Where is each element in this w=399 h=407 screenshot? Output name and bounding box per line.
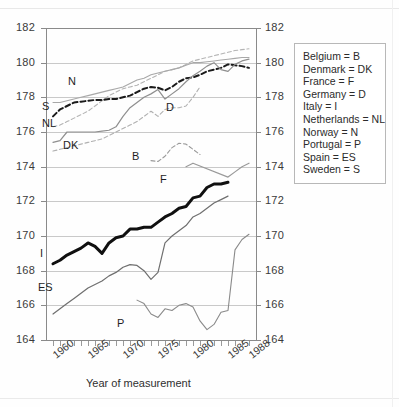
page-edge-right [392, 0, 393, 407]
y-axis-tick-label: 172 [3, 194, 35, 206]
legend-entry: Belgium = B [303, 50, 379, 63]
y-axis-tick-label: 174 [3, 160, 35, 172]
series-label-d: D [166, 101, 174, 113]
y-axis-tick-label: 168 [265, 264, 284, 276]
y-axis-tick-label: 182 [265, 21, 284, 33]
series-line-p [137, 234, 249, 329]
y-axis-tick-label: 176 [265, 125, 284, 137]
series-label-i: I [40, 247, 43, 259]
x-tick-minor [88, 341, 89, 346]
y-axis-tick-label: 178 [3, 90, 35, 102]
x-tick-minor [193, 341, 194, 346]
series-line-i [53, 182, 228, 263]
y-axis-tick-label: 170 [265, 229, 284, 241]
series-label-s: S [42, 100, 49, 112]
y-axis-tick-label: 182 [3, 21, 35, 33]
series-label-n: N [68, 75, 76, 87]
y-axis-tick-label: 180 [3, 56, 35, 68]
series-line-f [186, 163, 249, 177]
line-chart: 164166168170172174176178180182 164166168… [0, 0, 300, 407]
y-axis-tick-label: 166 [265, 298, 284, 310]
x-tick-minor [158, 341, 159, 346]
legend-entry: Norway = N [303, 126, 379, 139]
series-line-n [53, 57, 249, 102]
y-axis-tick-label: 170 [3, 229, 35, 241]
legend-entry: Sweden = S [303, 163, 379, 176]
x-tick-minor [81, 341, 82, 346]
series-line-b [151, 143, 200, 161]
y-axis-right [256, 28, 257, 340]
x-tick-minor [221, 341, 222, 346]
y-axis-tick-label: 172 [265, 194, 284, 206]
series-label-es: ES [38, 281, 53, 293]
page-background: 164166168170172174176178180182 164166168… [0, 0, 399, 407]
legend-entry: Denmark = DK [303, 63, 379, 76]
series-line-es [53, 196, 228, 314]
x-tick-minor [186, 341, 187, 346]
legend-entry: Spain = ES [303, 151, 379, 164]
y-axis-tick-label: 164 [3, 333, 35, 345]
series-label-p: P [117, 317, 124, 329]
legend-box: Belgium = BDenmark = DKFrance = FGermany… [294, 43, 386, 184]
legend-entry: Germany = D [303, 88, 379, 101]
x-tick-minor [151, 341, 152, 346]
y-axis-tick-label: 166 [3, 298, 35, 310]
plot-area [46, 28, 256, 340]
x-tick-minor [116, 341, 117, 346]
x-axis-title: Year of measurement [86, 377, 191, 389]
series-label-dk: DK [63, 139, 78, 151]
legend-entry: Italy = I [303, 100, 379, 113]
legend-entry: Netherlands = NL [303, 113, 379, 126]
y-axis-tick-label: 180 [265, 56, 284, 68]
series-lines [46, 28, 256, 340]
legend-entry: Portugal = P [303, 138, 379, 151]
series-label-f: F [160, 173, 167, 185]
x-tick-minor [123, 341, 124, 346]
legend-entry: France = F [303, 75, 379, 88]
y-axis-tick-label: 176 [3, 125, 35, 137]
series-label-b: B [132, 150, 139, 162]
series-line-s [53, 64, 249, 116]
series-label-nl: NL [42, 117, 56, 129]
y-axis-tick-label: 174 [265, 160, 284, 172]
x-tick-minor [53, 341, 54, 346]
y-axis-tick-label: 168 [3, 264, 35, 276]
x-tick-minor [228, 341, 229, 346]
y-axis-tick-label: 178 [265, 90, 284, 102]
